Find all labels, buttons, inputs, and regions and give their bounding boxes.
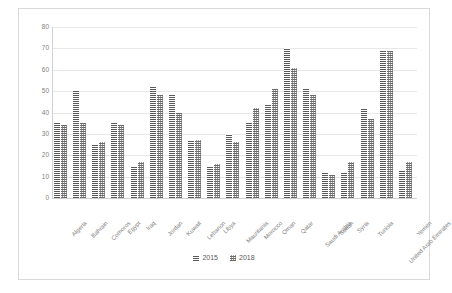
y-axis-tick-label: 30 <box>42 131 49 138</box>
bar-group <box>302 27 321 198</box>
bar <box>92 145 98 198</box>
bar <box>380 51 386 198</box>
bar-group <box>130 27 149 198</box>
bar <box>150 87 156 198</box>
bar-group <box>360 27 379 198</box>
bar-group <box>379 27 398 198</box>
bar <box>73 91 79 198</box>
bar <box>118 125 124 198</box>
bar-group <box>398 27 417 198</box>
bar <box>226 134 232 198</box>
bar <box>399 170 405 198</box>
bar <box>368 119 374 198</box>
y-axis-tick-label: 10 <box>42 173 49 180</box>
bar <box>214 164 220 198</box>
bar-group <box>91 27 110 198</box>
legend-swatch-icon <box>193 255 199 261</box>
bar <box>157 95 163 198</box>
bar-group <box>321 27 340 198</box>
y-axis-tick-label: 40 <box>42 109 49 116</box>
bar <box>348 162 354 198</box>
y-axis-tick-label: 20 <box>42 152 49 159</box>
bar <box>99 142 105 198</box>
bar <box>341 172 347 198</box>
x-axis-tick-label: Oman <box>280 220 296 236</box>
x-axis-tick-label: Syria <box>356 220 370 234</box>
bar <box>291 68 297 198</box>
bar <box>233 142 239 198</box>
bar <box>361 108 367 198</box>
legend-swatch-icon <box>230 255 236 261</box>
bar <box>310 95 316 198</box>
bar-group <box>168 27 187 198</box>
bar <box>329 175 335 199</box>
bar <box>138 162 144 198</box>
plot-area: 01020304050607080 AlgeriaBahrainComorosE… <box>53 27 417 198</box>
bar <box>188 140 194 198</box>
legend-label: 2018 <box>239 254 255 261</box>
chart-legend: 20152018 <box>19 254 429 261</box>
y-axis-tick-label: 50 <box>42 88 49 95</box>
chart-frame: 01020304050607080 AlgeriaBahrainComorosE… <box>18 8 430 280</box>
bar-group <box>53 27 72 198</box>
y-axis-tick-label: 80 <box>42 24 49 31</box>
bar-group <box>72 27 91 198</box>
bar <box>80 123 86 198</box>
y-axis-tick-label: 0 <box>45 195 49 202</box>
bar <box>272 89 278 198</box>
bar <box>253 108 259 198</box>
x-axis-tick-label: Bahrain <box>90 220 109 239</box>
x-axis-tick-label: Algeria <box>70 220 87 237</box>
legend-label: 2015 <box>202 254 218 261</box>
x-axis-tick-label: Sudan <box>338 220 355 237</box>
bar-group <box>283 27 302 198</box>
bar <box>176 113 182 199</box>
legend-item[interactable]: 2018 <box>230 254 255 261</box>
bar <box>284 48 290 198</box>
x-axis-tick-label: Jordan <box>166 220 183 237</box>
bar <box>246 123 252 198</box>
x-axis-tick-label: Qatar <box>299 220 314 235</box>
bar <box>169 95 175 198</box>
bar-group <box>206 27 225 198</box>
bar <box>303 89 309 198</box>
bar <box>387 51 393 198</box>
bar-group <box>187 27 206 198</box>
bar-group <box>245 27 264 198</box>
legend-item[interactable]: 2015 <box>193 254 218 261</box>
bar-group <box>110 27 129 198</box>
bar <box>195 140 201 198</box>
x-axis-tick-label: Tunisia <box>377 220 395 238</box>
bar <box>265 104 271 198</box>
x-axis-tick-label: Kuwait <box>185 220 202 237</box>
bar <box>406 162 412 198</box>
bar-group <box>340 27 359 198</box>
bar-group <box>264 27 283 198</box>
bar <box>61 125 67 198</box>
bar <box>111 123 117 198</box>
y-axis-tick-label: 70 <box>42 45 49 52</box>
bar <box>322 172 328 198</box>
gridline <box>53 198 417 199</box>
bar-group <box>149 27 168 198</box>
x-axis-tick-label: Yemen <box>415 220 432 237</box>
bar <box>207 166 213 198</box>
bar <box>54 123 60 198</box>
x-axis-tick-label: Iraq <box>145 220 157 232</box>
y-axis-tick-label: 60 <box>42 67 49 74</box>
bar <box>131 166 137 198</box>
bar-group <box>225 27 244 198</box>
